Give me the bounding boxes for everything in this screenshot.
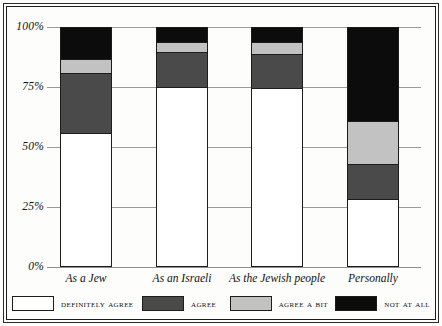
bar-segment-agree[interactable] [252, 54, 302, 87]
bar-segment-definitely-agree[interactable] [157, 87, 207, 266]
legend-item-agree-a-bit[interactable]: Agree a bit [230, 296, 336, 311]
y-axis-tick-label: 50% [22, 140, 44, 152]
light-gray-swatch [230, 296, 272, 311]
bar-segment-not-at-all[interactable] [252, 28, 302, 42]
legend-item-not-at-all[interactable]: Not at all [335, 296, 430, 311]
legend-label: Agree a bit [279, 298, 328, 309]
bar-as-the-jewish-people[interactable] [251, 27, 303, 267]
bar-as-a-jew[interactable] [60, 27, 112, 267]
bar-segment-agree[interactable] [61, 73, 111, 133]
chart-legend: Definitely agreeAgreeAgree a bitNot at a… [12, 291, 430, 315]
bar-personally[interactable] [347, 27, 399, 267]
legend-label: Agree [191, 298, 216, 309]
white-swatch [12, 296, 54, 311]
bar-segment-agree-a-bit[interactable] [348, 121, 398, 164]
y-axis-tick-label: 75% [22, 80, 44, 92]
bar-segment-agree-a-bit[interactable] [252, 42, 302, 54]
legend-item-agree[interactable]: Agree [142, 296, 230, 311]
bar-segment-agree-a-bit[interactable] [157, 42, 207, 52]
plot-area [47, 27, 421, 267]
bar-segment-not-at-all[interactable] [61, 28, 111, 59]
bar-segment-definitely-agree[interactable] [61, 133, 111, 266]
bar-segment-agree[interactable] [348, 164, 398, 200]
y-axis-labels: 100%75%50%25%0% [8, 27, 44, 267]
y-axis-tick-label: 100% [16, 20, 44, 32]
bar-segment-definitely-agree[interactable] [348, 199, 398, 266]
dark-gray-swatch [142, 296, 184, 311]
y-axis-tick-label: 0% [28, 260, 44, 272]
legend-label: Definitely agree [61, 298, 133, 309]
bar-segment-agree-a-bit[interactable] [61, 59, 111, 73]
y-axis-tick-label: 25% [22, 200, 44, 212]
bar-segment-definitely-agree[interactable] [252, 88, 302, 267]
bar-segment-not-at-all[interactable] [157, 28, 207, 42]
bar-as-an-israeli[interactable] [156, 27, 208, 267]
legend-label: Not at all [384, 298, 430, 309]
x-axis-baseline [47, 267, 421, 268]
black-swatch [335, 296, 377, 311]
x-axis-category-label: Personally [313, 272, 433, 284]
legend-item-definitely-agree[interactable]: Definitely agree [12, 296, 142, 311]
chart-container: 100%75%50%25%0% As a JewAs an IsraeliAs … [0, 0, 442, 326]
bar-segment-not-at-all[interactable] [348, 28, 398, 121]
bar-segment-agree[interactable] [157, 52, 207, 88]
